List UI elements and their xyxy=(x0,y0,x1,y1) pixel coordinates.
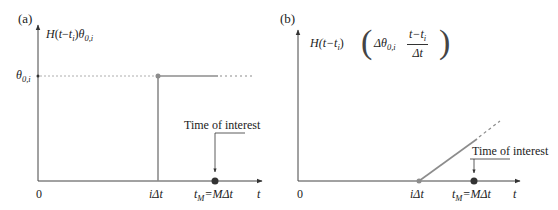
xtick-b-dt: Δt xyxy=(413,187,423,201)
ylabel-b-numerator: t−ti xyxy=(407,27,428,45)
ramp-solid xyxy=(419,139,477,181)
ytick-theta-sub: 0,i xyxy=(22,74,31,84)
ylabel-b-dtheta: Δθ xyxy=(374,36,387,50)
xtick-b-Mdt: Δt xyxy=(481,187,491,201)
step-corner-marker xyxy=(156,74,161,79)
xtick-Mdt: Δt xyxy=(223,187,233,201)
time-of-interest-dot-b xyxy=(471,178,478,185)
ylabel-H: H xyxy=(46,27,55,41)
panel-a-tag: (a) xyxy=(18,12,32,25)
xtick-b-eq-M: =M xyxy=(462,187,480,201)
xtick-eq-M: =M xyxy=(204,187,222,201)
time-of-interest-leader-a xyxy=(215,133,245,172)
num-text: t−t xyxy=(409,27,424,41)
ylabel-minus: − xyxy=(62,27,69,41)
panel-b-tag: (b) xyxy=(280,12,295,25)
theta-tick-dot xyxy=(37,75,40,78)
xtick-zero-b: 0 xyxy=(297,188,303,200)
ytick-theta: θ0,i xyxy=(16,69,31,84)
ramp-extension-dashed xyxy=(479,121,500,137)
ylabel-b-fraction: t−ti Δt xyxy=(407,27,428,61)
ylabel-b-delta-theta: Δθ0,i xyxy=(374,37,396,52)
ylabel-b-prefix: H(t−ti) xyxy=(310,37,344,52)
ramp-start-marker xyxy=(417,179,422,184)
time-of-interest-label-a: Time of interest xyxy=(184,119,260,131)
xtick-zero-a: 0 xyxy=(36,188,42,200)
x-axis-label-b: t xyxy=(513,188,516,200)
ylabel-b-prefix-close: ) xyxy=(340,36,344,50)
ylabel-b-rparen: ) xyxy=(439,25,450,59)
xtick-tM-b: tM=MΔt xyxy=(452,188,491,203)
xtick-i-dt-a: iΔt xyxy=(149,188,163,200)
xtick-tM-a: tM=MΔt xyxy=(194,188,233,203)
ylabel-b-denominator: Δt xyxy=(407,45,428,61)
num-sub: i xyxy=(424,33,426,43)
ylabel-theta-sub: 0,i xyxy=(84,33,93,43)
xtick-i-dt-b: iΔt xyxy=(410,188,424,200)
xtick-dt: Δt xyxy=(152,187,162,201)
ylabel-b-H: H(t−t xyxy=(310,36,337,50)
x-axis-label-a: t xyxy=(257,188,260,200)
ylabel-b-lparen: ( xyxy=(361,25,372,59)
panel-a-ylabel: H(t−ti)θ0,i xyxy=(46,28,93,43)
ylabel-b-dtheta-sub: 0,i xyxy=(387,42,396,52)
time-of-interest-label-b: Time of interest xyxy=(472,145,548,157)
panel-a-plot xyxy=(37,25,263,185)
time-of-interest-dot-a xyxy=(212,178,219,185)
